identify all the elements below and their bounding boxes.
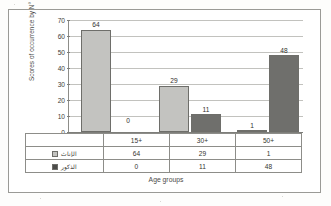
scanned-page: Scores of occurrence by N° 70 60 50 40 3… [0, 0, 331, 206]
y-tick-40: 40 [43, 65, 65, 72]
table-header-30plus: 30+ [169, 134, 235, 147]
bar-label-15plus-series2: 0 [126, 117, 130, 124]
legend-label-series1: الإناث [61, 150, 77, 157]
legend-label-series2: الذكور [61, 163, 77, 170]
x-axis-title: Age groups [91, 176, 241, 183]
bar-label-15plus-series1: 64 [92, 21, 99, 28]
scan-speck [40, 198, 41, 199]
table-row: الإناث 64 29 1 [26, 147, 302, 160]
bar-group-50plus: 1 48 [224, 20, 302, 132]
table-corner-cell [26, 134, 104, 147]
y-tick-20: 20 [43, 97, 65, 104]
cell-series2-15plus: 0 [103, 160, 169, 173]
y-axis-title: Scores of occurrence by N° [28, 0, 35, 96]
y-tick-50: 50 [43, 49, 65, 56]
cell-series1-50plus: 1 [235, 147, 301, 160]
legend-swatch-dark-gray-icon [52, 164, 58, 170]
legend-row-series1[interactable]: الإناث [26, 147, 104, 160]
y-tick-30: 30 [43, 81, 65, 88]
scan-speck [160, 201, 161, 202]
bar-group-30plus: 29 11 [146, 20, 224, 132]
table-header-15plus: 15+ [103, 134, 169, 147]
bar-30plus-series2[interactable] [191, 114, 221, 132]
bar-series-container: 64 0 29 11 1 48 [68, 20, 302, 132]
bar-label-30plus-series2: 11 [203, 106, 210, 113]
bar-label-30plus-series1: 29 [170, 77, 177, 84]
bar-group-15plus: 64 0 [68, 20, 146, 132]
data-table: 15+ 30+ 50+ الإناث 64 29 1 الذكور 0 11 4… [25, 133, 302, 173]
y-tick-10: 10 [43, 113, 65, 120]
table-header-50plus: 50+ [235, 134, 301, 147]
table-row: الذكور 0 11 48 [26, 160, 302, 173]
scan-speck [282, 196, 283, 197]
cell-series1-15plus: 64 [103, 147, 169, 160]
bar-50plus-series1[interactable] [237, 130, 267, 132]
cell-series1-30plus: 29 [169, 147, 235, 160]
bar-label-50plus-series2: 48 [280, 47, 287, 54]
cell-series2-50plus: 48 [235, 160, 301, 173]
legend-swatch-light-gray-icon [52, 151, 58, 157]
y-tick-70: 70 [43, 17, 65, 24]
chart-frame: Scores of occurrence by N° 70 60 50 40 3… [8, 9, 321, 193]
bar-30plus-series1[interactable] [159, 86, 189, 132]
table-header-row: 15+ 30+ 50+ [26, 134, 302, 147]
y-tick-60: 60 [43, 33, 65, 40]
bar-label-50plus-series1: 1 [250, 122, 254, 129]
legend-row-series2[interactable]: الذكور [26, 160, 104, 173]
scan-speck [14, 4, 15, 5]
bar-15plus-series1[interactable] [81, 30, 111, 132]
cell-series2-30plus: 11 [169, 160, 235, 173]
y-axis-tick-labels: 70 60 50 40 30 20 10 0 [43, 20, 65, 132]
bar-50plus-series2[interactable] [269, 55, 299, 132]
